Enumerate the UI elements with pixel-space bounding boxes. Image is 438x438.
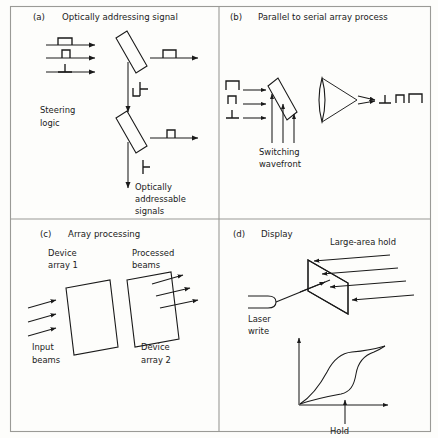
panel-c-title: Array processing [68, 229, 140, 239]
panel-d-title: Display [261, 229, 293, 239]
panel-d-tag: (d) [233, 229, 245, 239]
panel-a-steering-label-line2: logic [40, 118, 60, 128]
panel-c-device2-line2: array 2 [141, 355, 171, 365]
panel-b-title: Parallel to serial array process [258, 12, 388, 22]
panel-c-tag: (c) [40, 229, 51, 239]
panel-c-device2-line1: Device [141, 342, 170, 352]
panel-a-steering-label-line1: Steering [40, 105, 75, 115]
panel-b-tag: (b) [230, 12, 242, 22]
panel-d-laser-line1: Laser [248, 314, 271, 324]
panel-d-hold-label: Hold [330, 426, 349, 436]
panel-c-processed-line1: Processed [132, 248, 174, 258]
panel-c-input-line1: Input [32, 342, 54, 352]
panel-b-wavefront-label-line2: wavefront [259, 159, 302, 169]
panel-c-processed-line2: beams [132, 260, 160, 270]
panel-c-device1-line1: Device [48, 248, 77, 258]
figure-root: (a) Optically addressing signal [0, 0, 438, 438]
panel-d-laser-line2: write [248, 326, 269, 336]
panel-c-device1-line2: array 1 [48, 260, 78, 270]
panel-d-large-area-hold-label: Large-area hold [330, 237, 396, 247]
panel-a-output-label-line2: addressable [135, 194, 186, 204]
panel-c-input-line2: beams [32, 355, 60, 365]
panel-a-output-label-line3: signals [135, 206, 164, 216]
panel-a-output-label-line1: Optically [135, 182, 172, 192]
panel-b-wavefront-label-line1: Switching [259, 147, 300, 157]
panel-a-tag: (a) [33, 12, 45, 22]
panel-a-title: Optically addressing signal [62, 12, 178, 22]
